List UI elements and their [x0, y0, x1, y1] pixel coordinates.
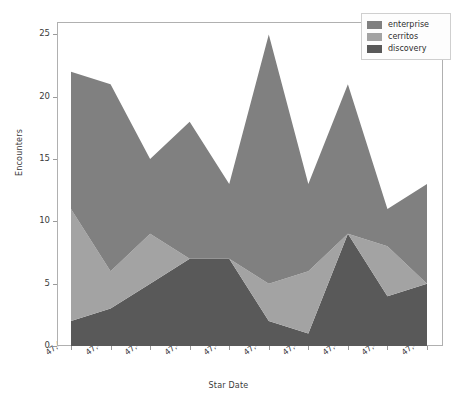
legend-item-discovery[interactable]: discovery [367, 43, 445, 54]
x-tick-mark-0 [71, 346, 72, 350]
y-tick-label-5: 5 [16, 278, 50, 288]
legend: enterprise cerritos discovery [361, 13, 451, 60]
legend-item-cerritos[interactable]: cerritos [367, 31, 445, 42]
legend-label-enterprise: enterprise [388, 20, 429, 29]
x-tick-mark-4 [229, 346, 230, 350]
x-axis-title: Star Date [0, 381, 457, 390]
area-chart: Encounters 0510152025 47,457.147,457.247… [0, 0, 457, 402]
x-tick-mark-6 [308, 346, 309, 350]
x-tick-mark-8 [387, 346, 388, 350]
x-tick-mark-3 [190, 346, 191, 350]
x-tick-mark-2 [150, 346, 151, 350]
x-tick-mark-9 [427, 346, 428, 350]
x-tick-mark-1 [111, 346, 112, 350]
legend-swatch-discovery [367, 45, 382, 53]
y-tick-label-15: 15 [16, 153, 50, 163]
y-tick-label-20: 20 [16, 91, 50, 101]
legend-label-discovery: discovery [388, 44, 426, 53]
legend-swatch-cerritos [367, 33, 382, 41]
y-tick-label-25: 25 [16, 28, 50, 38]
y-tick-label-10: 10 [16, 215, 50, 225]
stacked-area-paths [57, 22, 443, 346]
x-tick-mark-7 [348, 346, 349, 350]
legend-item-enterprise[interactable]: enterprise [367, 19, 445, 30]
legend-label-cerritos: cerritos [388, 32, 418, 41]
legend-swatch-enterprise [367, 21, 382, 29]
x-tick-mark-5 [269, 346, 270, 350]
